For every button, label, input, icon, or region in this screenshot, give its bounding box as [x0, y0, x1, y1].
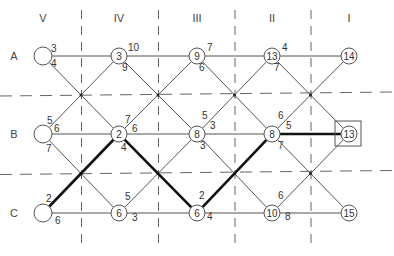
state-label: B: [10, 128, 17, 140]
node-value: 14: [343, 51, 355, 62]
node-a-i: 14: [341, 48, 357, 64]
edge-weight: 10: [128, 42, 140, 53]
node-value: 15: [343, 208, 355, 219]
node-c-v: [34, 204, 52, 222]
edge-weight: 4: [207, 211, 213, 222]
edge-weight: 6: [199, 62, 205, 73]
node-value: 8: [269, 129, 275, 140]
edge-weight: 6: [278, 190, 284, 201]
edge-weight: 5: [125, 191, 131, 202]
edge-crossing: [233, 94, 236, 97]
node-value: 9: [194, 51, 200, 62]
state-divider: [0, 92, 394, 96]
node-c-iii: 6: [189, 205, 205, 221]
node-c-iv: 6: [111, 205, 127, 221]
node-value: 10: [266, 208, 278, 219]
edge-weight: 5: [47, 115, 53, 126]
edge-weight: 4: [282, 42, 288, 53]
edge-weight: 3: [200, 140, 206, 151]
edge-weight: 7: [46, 143, 52, 154]
edge-weight: 7: [125, 114, 131, 125]
dynamic-programming-network: 39131428813661015 3410976475677645336572…: [0, 0, 394, 256]
node-a-v: [34, 47, 52, 65]
edge-weight: 6: [132, 123, 138, 134]
edge-crossing: [309, 172, 312, 175]
node-value: 13: [343, 129, 355, 140]
node-circle: [34, 47, 52, 65]
edge-weight: 7: [274, 62, 280, 73]
node-value: 2: [116, 129, 122, 140]
edge-weight: 5: [202, 110, 208, 121]
edge-weight: 5: [286, 120, 292, 131]
node-value: 6: [194, 208, 200, 219]
edge-weight: 6: [55, 215, 61, 226]
edge-weight: 9: [122, 62, 128, 73]
node-c-ii: 10: [264, 205, 280, 221]
stage-label: III: [192, 12, 201, 24]
node-value: 3: [116, 51, 122, 62]
edge-weight: 3: [51, 43, 57, 54]
state-label: C: [10, 207, 18, 219]
edge-weight: 3: [210, 120, 216, 131]
stage-label: IV: [114, 12, 125, 24]
edge-weight: 2: [199, 190, 205, 201]
edge-weight: 6: [54, 123, 60, 134]
stage-label: II: [269, 12, 275, 24]
edge-weight: 8: [285, 211, 291, 222]
stage-label: V: [39, 12, 47, 24]
edge-weight: 3: [132, 212, 138, 223]
edge-weight: 7: [207, 42, 213, 53]
state-label: A: [10, 50, 18, 62]
stage-label: I: [347, 12, 350, 24]
edge-crossing: [80, 94, 83, 97]
edge-weight: 7: [278, 140, 284, 151]
edge-weight: 4: [51, 58, 57, 69]
node-c-i: 15: [341, 205, 357, 221]
node-circle: [34, 125, 52, 143]
edge-weight: 6: [278, 110, 284, 121]
node-b-v: [34, 125, 52, 143]
edge-crossing: [309, 94, 312, 97]
node-circle: [34, 204, 52, 222]
state-divider: [0, 171, 394, 175]
optimal-path: [49, 134, 341, 207]
node-value: 6: [116, 208, 122, 219]
node-value: 8: [194, 129, 200, 140]
edge-weight: 4: [121, 142, 127, 153]
edge-crossing: [157, 94, 160, 97]
node-b-iv: 2: [111, 126, 127, 142]
node-value: 13: [266, 51, 278, 62]
edge-weight: 2: [46, 193, 52, 204]
